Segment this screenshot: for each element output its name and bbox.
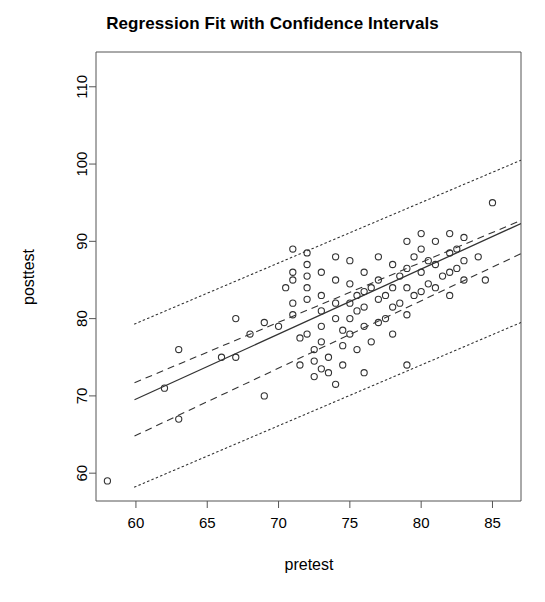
plot-frame (96, 52, 521, 501)
data-point (304, 296, 310, 302)
x-tick-label: 60 (128, 514, 145, 531)
data-point (418, 231, 424, 237)
data-point (275, 323, 281, 329)
data-point (368, 285, 374, 291)
data-point (361, 370, 367, 376)
regression-line (135, 224, 521, 400)
data-point (333, 254, 339, 260)
data-point (390, 285, 396, 291)
data-point (333, 316, 339, 322)
data-point (347, 281, 353, 287)
data-point (290, 246, 296, 252)
data-point (325, 354, 331, 360)
data-point (340, 327, 346, 333)
data-point (261, 319, 267, 325)
data-point (311, 358, 317, 364)
data-point (233, 354, 239, 360)
y-tick-label: 110 (74, 75, 91, 99)
data-point (375, 254, 381, 260)
y-axis-label: posttest (20, 248, 37, 305)
data-point (404, 362, 410, 368)
data-point (290, 277, 296, 283)
data-point (340, 362, 346, 368)
data-point (475, 254, 481, 260)
data-point (425, 281, 431, 287)
data-point (333, 300, 339, 306)
x-tick-label: 75 (342, 514, 359, 531)
y-tick-label: 80 (74, 310, 91, 327)
y-tick-label: 70 (74, 388, 91, 405)
data-point (382, 316, 388, 322)
data-point (382, 292, 388, 298)
scatter-points (104, 200, 495, 484)
data-point (411, 292, 417, 298)
data-point (318, 292, 324, 298)
data-point (340, 343, 346, 349)
data-point (347, 258, 353, 264)
data-point (418, 246, 424, 252)
x-tick-label: 85 (484, 514, 501, 531)
data-point (361, 304, 367, 310)
data-point (104, 478, 110, 484)
data-point (354, 308, 360, 314)
y-tick-label: 90 (74, 233, 91, 250)
data-point (404, 265, 410, 271)
data-point (318, 269, 324, 275)
data-point (304, 261, 310, 267)
data-point (176, 416, 182, 422)
y-axis-ticks: 60708090100110 (74, 75, 97, 482)
data-point (375, 296, 381, 302)
data-point (432, 238, 438, 244)
data-point (297, 335, 303, 341)
chart-figure: Regression Fit with Confidence Intervals… (0, 0, 545, 602)
data-point (489, 200, 495, 206)
data-point (304, 331, 310, 337)
data-point (176, 346, 182, 352)
interval-bands (135, 160, 521, 487)
data-point (404, 285, 410, 291)
data-point (318, 339, 324, 345)
x-axis-ticks: 606570758085 (128, 501, 501, 531)
data-point (318, 366, 324, 372)
regression-fit-line (135, 224, 521, 400)
x-tick-label: 65 (199, 514, 216, 531)
prediction-interval-lower-line (135, 322, 521, 487)
data-point (418, 269, 424, 275)
data-point (297, 362, 303, 368)
data-point (261, 393, 267, 399)
data-point (397, 300, 403, 306)
data-point (411, 254, 417, 260)
data-point (361, 288, 367, 294)
data-point (390, 261, 396, 267)
data-point (390, 331, 396, 337)
data-point (290, 300, 296, 306)
data-point (290, 312, 296, 318)
x-tick-label: 70 (270, 514, 287, 531)
chart-plot-area: 606570758085 60708090100110 pretest post… (0, 0, 545, 602)
data-point (390, 304, 396, 310)
data-point (447, 269, 453, 275)
prediction-interval-upper-line (135, 160, 521, 324)
data-point (354, 346, 360, 352)
data-point (404, 238, 410, 244)
data-point (311, 373, 317, 379)
data-point (233, 316, 239, 322)
confidence-interval-lower-line (135, 254, 521, 436)
x-tick-label: 80 (413, 514, 430, 531)
data-point (482, 277, 488, 283)
data-point (290, 269, 296, 275)
data-point (325, 370, 331, 376)
data-point (418, 288, 424, 294)
data-point (354, 292, 360, 298)
data-point (318, 323, 324, 329)
data-point (304, 273, 310, 279)
data-point (304, 285, 310, 291)
data-point (318, 308, 324, 314)
data-point (361, 269, 367, 275)
data-point (347, 331, 353, 337)
y-tick-label: 60 (74, 465, 91, 482)
data-point (447, 292, 453, 298)
data-point (432, 285, 438, 291)
data-point (347, 316, 353, 322)
data-point (283, 285, 289, 291)
